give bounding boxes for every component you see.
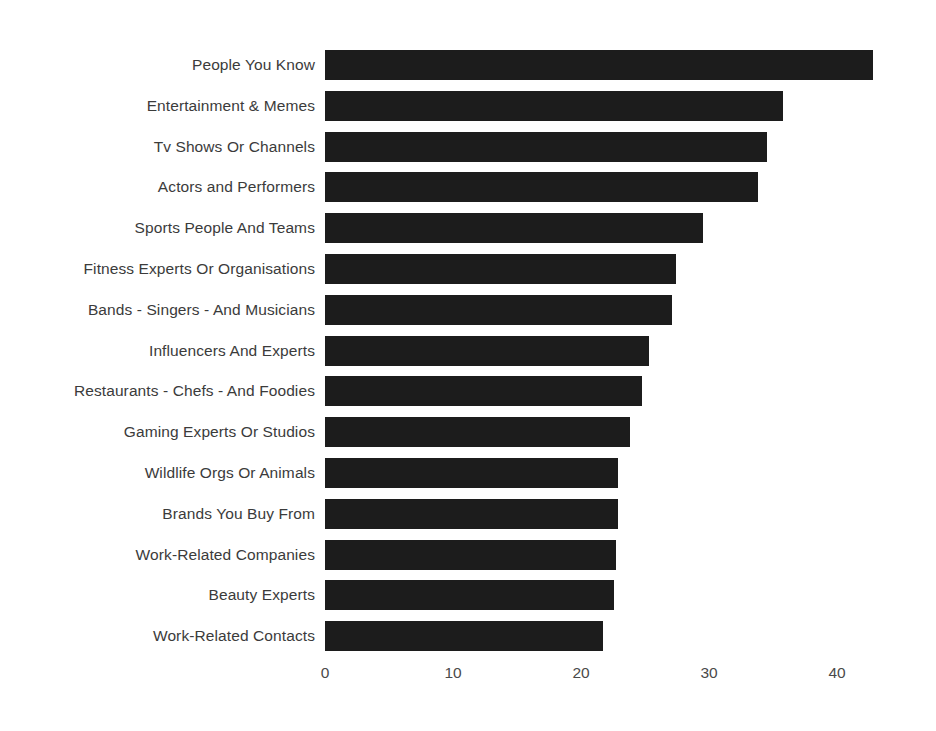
bar (325, 621, 603, 651)
bar-category-label: Brands You Buy From (162, 499, 315, 529)
bar-category-label: Beauty Experts (208, 580, 315, 610)
bar (325, 132, 767, 162)
bar (325, 213, 703, 243)
bar (325, 499, 618, 529)
bar-category-label: People You Know (192, 50, 315, 80)
plot-area: People You KnowEntertainment & MemesTv S… (0, 0, 936, 731)
bar-category-label: Fitness Experts Or Organisations (84, 254, 315, 284)
bar-row: Influencers And Experts (0, 336, 936, 366)
x-tick-label: 30 (700, 663, 717, 683)
bar (325, 580, 614, 610)
bar-category-label: Entertainment & Memes (147, 91, 315, 121)
bar-row: Tv Shows Or Channels (0, 132, 936, 162)
bar-row: Wildlife Orgs Or Animals (0, 458, 936, 488)
bar-row: Beauty Experts (0, 580, 936, 610)
bar (325, 417, 630, 447)
bar (325, 50, 873, 80)
bar (325, 540, 616, 570)
bar-category-label: Gaming Experts Or Studios (124, 417, 315, 447)
bar-category-label: Wildlife Orgs Or Animals (145, 458, 315, 488)
bar-row: Brands You Buy From (0, 499, 936, 529)
x-tick-label: 10 (444, 663, 461, 683)
bar-category-label: Influencers And Experts (149, 336, 315, 366)
bar-row: Fitness Experts Or Organisations (0, 254, 936, 284)
bar (325, 172, 758, 202)
bar-row: Work-Related Contacts (0, 621, 936, 651)
bar-row: Restaurants - Chefs - And Foodies (0, 376, 936, 406)
bar (325, 458, 618, 488)
bar-row: People You Know (0, 50, 936, 80)
bar-row: Gaming Experts Or Studios (0, 417, 936, 447)
bar-row: Bands - Singers - And Musicians (0, 295, 936, 325)
bar (325, 336, 649, 366)
bar-row: Sports People And Teams (0, 213, 936, 243)
bar-category-label: Restaurants - Chefs - And Foodies (74, 376, 315, 406)
bar-category-label: Tv Shows Or Channels (154, 132, 315, 162)
bar-category-label: Work-Related Companies (136, 540, 315, 570)
x-tick-label: 40 (828, 663, 845, 683)
bar (325, 295, 672, 325)
bar-row: Actors and Performers (0, 172, 936, 202)
x-axis-tick-labels: 010203040 (0, 663, 936, 691)
bar-category-label: Work-Related Contacts (153, 621, 315, 651)
bar-category-label: Bands - Singers - And Musicians (88, 295, 315, 325)
bar-row: Work-Related Companies (0, 540, 936, 570)
bar (325, 91, 783, 121)
x-tick-label: 20 (572, 663, 589, 683)
bar-category-label: Actors and Performers (158, 172, 315, 202)
bar-row: Entertainment & Memes (0, 91, 936, 121)
bar (325, 254, 676, 284)
bar-category-label: Sports People And Teams (135, 213, 315, 243)
bar (325, 376, 642, 406)
bar-chart: People You KnowEntertainment & MemesTv S… (0, 0, 936, 731)
x-tick-label: 0 (321, 663, 330, 683)
